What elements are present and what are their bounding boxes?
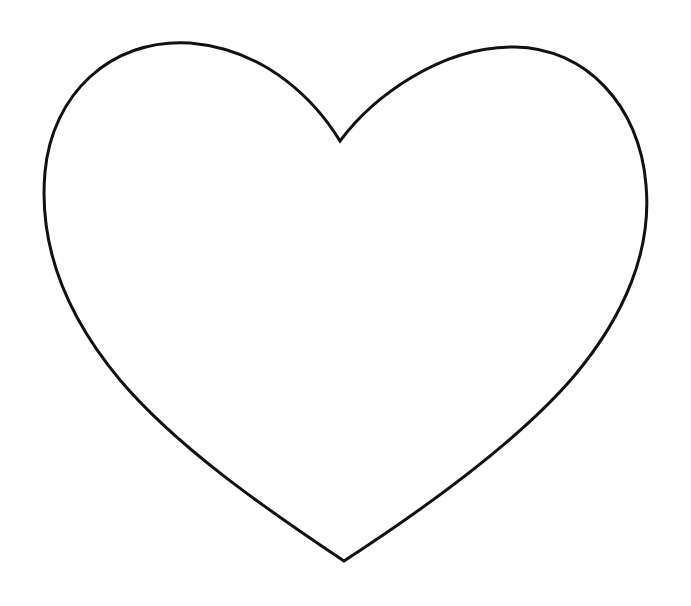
- heart-path: [44, 43, 647, 561]
- heart-outline-icon: [0, 0, 691, 606]
- heart-canvas: [0, 0, 691, 606]
